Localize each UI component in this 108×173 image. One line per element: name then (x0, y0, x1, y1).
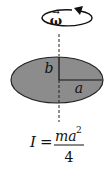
b-label: b (45, 60, 54, 76)
vector-arrow: → (52, 7, 60, 17)
formula-exponent: 2 (76, 125, 82, 135)
a-label: a (75, 80, 83, 96)
formula-equals: = (40, 133, 53, 151)
formula-denominator: 4 (65, 149, 74, 165)
formula-numerator: ma (55, 128, 77, 144)
formula-lhs: I (29, 133, 37, 151)
formula: I = ma 2 4 (29, 125, 84, 165)
ellipse-moment-of-inertia-diagram: ω → b a I = ma 2 4 (0, 0, 108, 173)
